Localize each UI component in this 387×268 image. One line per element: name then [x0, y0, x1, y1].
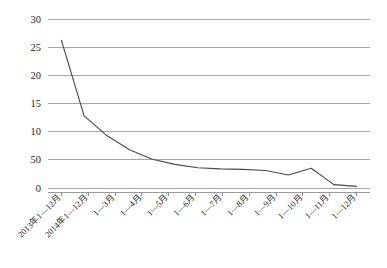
x-axis-tick-label: 1—11月	[303, 192, 331, 220]
y-axis-tick-label: 15	[31, 98, 42, 109]
y-axis-tick-label: 50	[31, 154, 42, 165]
data-series-line	[61, 40, 356, 186]
chart-canvas: 05010152025302013年1—12月2014年1—12月1—3月1—4…	[0, 0, 387, 268]
x-axis-tick-label: 1—10月	[276, 192, 305, 221]
y-axis-tick-label: 0	[36, 183, 41, 194]
x-axis-tick-label: 1—4月	[118, 192, 144, 218]
x-axis-tick-label: 1—6月	[171, 192, 197, 218]
x-axis-tick-label: 1—3月	[91, 192, 117, 218]
x-axis-tick-label: 1—7月	[198, 192, 224, 218]
x-axis-tick-label: 1—9月	[252, 192, 278, 218]
x-axis-tick-label: 1—12月	[329, 192, 358, 221]
y-axis-tick-label: 20	[31, 70, 42, 81]
x-axis-tick-label: 1—5月	[145, 192, 171, 218]
y-axis-tick-label: 25	[31, 42, 42, 53]
y-axis-tick-label: 30	[31, 14, 42, 25]
y-gridlines	[48, 19, 370, 188]
line-chart: 05010152025302013年1—12月2014年1—12月1—3月1—4…	[0, 0, 387, 268]
x-axis-tick-label: 1—8月	[225, 192, 251, 218]
y-axis-tick-label: 10	[31, 126, 42, 137]
